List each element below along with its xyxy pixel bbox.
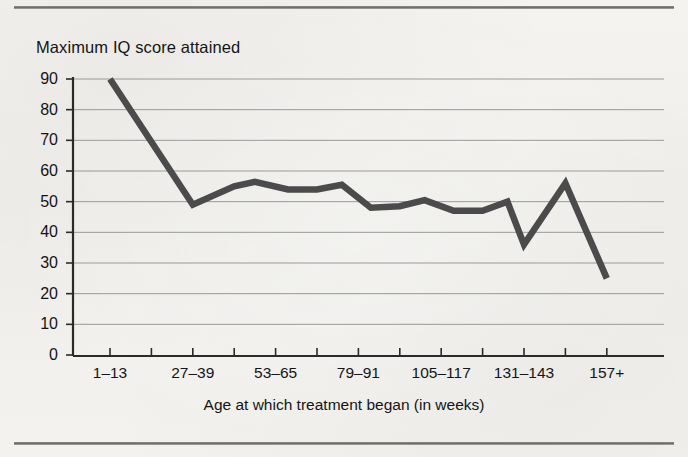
y-tick-label: 0 [24, 346, 58, 364]
y-tick-label: 10 [24, 315, 58, 333]
x-tick-label: 105–117 [412, 364, 471, 382]
y-tick-label: 40 [24, 223, 58, 241]
chart-figure: Maximum IQ score attained 01020304050607… [0, 0, 688, 457]
x-tick-label: 131–143 [494, 364, 554, 382]
x-tick-label: 27–39 [171, 364, 214, 382]
x-axis-ticks [110, 348, 607, 356]
x-axis-label: Age at which treatment began (in weeks) [0, 396, 688, 414]
data-series-line [110, 79, 607, 278]
y-tick-label: 70 [24, 131, 58, 149]
x-tick-label: 53–65 [254, 364, 297, 382]
y-tick-label: 60 [24, 162, 58, 180]
x-tick-label: 157+ [589, 364, 624, 382]
x-tick-label: 79–91 [337, 364, 380, 382]
y-tick-label: 80 [24, 101, 58, 119]
y-tick-label: 50 [24, 193, 58, 211]
y-tick-label: 20 [24, 285, 58, 303]
y-tick-label: 90 [24, 70, 58, 88]
y-tick-label: 30 [24, 254, 58, 272]
x-tick-label: 1–13 [93, 364, 127, 382]
plot-area [0, 0, 688, 457]
